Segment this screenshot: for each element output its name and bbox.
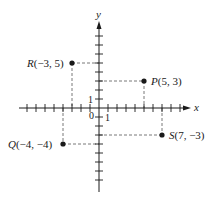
y-unit-label: 1 (88, 94, 93, 105)
point-q-label: Q(−4, −4) (8, 138, 53, 151)
guide-lines (63, 63, 162, 144)
point-q (60, 141, 65, 146)
x-axis-arrow-icon (183, 106, 191, 111)
point-s (159, 132, 164, 137)
point-r-label: R(−3, 5) (26, 57, 64, 70)
point-p (141, 78, 146, 83)
y-axis-arrow-icon (97, 21, 102, 29)
point-s-label: S(7, −3) (169, 129, 205, 142)
y-axis-label: y (95, 8, 101, 20)
x-axis-label: x (193, 101, 199, 113)
point-p-label: P(5, 3) (150, 75, 182, 88)
origin-label: 0 (89, 110, 94, 121)
x-unit-label: 1 (105, 112, 110, 123)
point-r (69, 60, 74, 65)
coordinate-plane: x y 0 1 1 R(−3, 5) P(5, 3) Q(−4, −4) S(7… (0, 0, 215, 201)
points (60, 60, 164, 146)
axes (19, 26, 186, 192)
